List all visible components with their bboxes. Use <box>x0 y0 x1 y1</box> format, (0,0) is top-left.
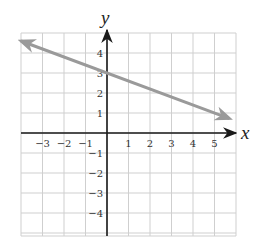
x-tick-label: 4 <box>190 138 196 149</box>
coordinate-plane: −3−2−1123454321−1−2−3−4 x y <box>0 0 263 245</box>
x-tick-label: −3 <box>35 138 50 149</box>
y-tick-label: 1 <box>97 108 103 119</box>
x-tick-label: 3 <box>168 138 174 149</box>
y-tick-label: −2 <box>88 168 103 179</box>
y-tick-label: 4 <box>97 48 103 59</box>
x-axis-label: x <box>240 122 250 143</box>
y-axis-label: y <box>99 7 110 28</box>
y-tick-label: 2 <box>97 88 103 99</box>
y-tick-label: −4 <box>88 208 103 219</box>
x-tick-label: −2 <box>57 138 72 149</box>
y-tick-label: −3 <box>88 188 103 199</box>
x-tick-label: 1 <box>125 138 131 149</box>
x-tick-label: 2 <box>147 138 153 149</box>
y-tick-label: −1 <box>88 148 103 159</box>
x-tick-label: 5 <box>211 138 217 149</box>
grid <box>21 33 236 236</box>
